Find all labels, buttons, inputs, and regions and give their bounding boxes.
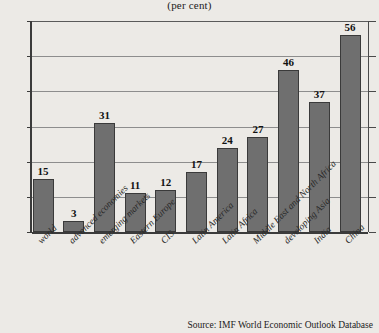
- bar-value-label: 27: [241, 124, 275, 135]
- y-tick-left-30: [27, 127, 32, 128]
- bar-value-label: 3: [57, 208, 91, 219]
- bar-value-label: 24: [210, 135, 244, 146]
- chart-subtitle: (per cent): [0, 0, 379, 11]
- source-note: Source: IMF World Economic Outlook Datab…: [187, 320, 373, 330]
- y-tick-left-0: [27, 232, 32, 233]
- gridline-50: [32, 56, 368, 57]
- bar-value-label: 37: [302, 89, 336, 100]
- y-tick-right-50: [369, 56, 376, 57]
- bar-value-label: 56: [333, 22, 367, 33]
- y-tick-left-60: [27, 21, 32, 22]
- y-tick-right-0: [369, 232, 376, 233]
- bar-value-label: 31: [87, 110, 121, 121]
- bar-value-label: 15: [26, 166, 60, 177]
- bar-value-label: 46: [272, 57, 306, 68]
- y-tick-left-40: [27, 91, 32, 92]
- bar-value-label: 12: [149, 177, 183, 188]
- bar-value-label: 17: [180, 159, 214, 170]
- chart-figure: (per cent) 0102030405060 153311112172427…: [0, 0, 379, 333]
- y-tick-right-20: [369, 162, 376, 163]
- y-tick-left-10: [27, 197, 32, 198]
- y-tick-right-10: [369, 197, 376, 198]
- gridline-60: [32, 21, 368, 22]
- bar: [340, 35, 361, 232]
- y-tick-right-30: [369, 127, 376, 128]
- y-tick-right-60: [369, 21, 376, 22]
- y-tick-left-50: [27, 56, 32, 57]
- y-tick-left-20: [27, 162, 32, 163]
- y-tick-right-40: [369, 91, 376, 92]
